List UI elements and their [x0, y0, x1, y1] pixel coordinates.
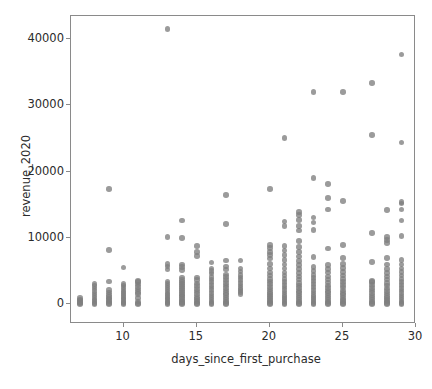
scatter-point [384, 262, 390, 268]
scatter-point [282, 135, 288, 141]
scatter-point [369, 80, 375, 86]
x-tick-mark [269, 323, 270, 327]
scatter-point [179, 218, 185, 224]
scatter-point [165, 261, 171, 267]
scatter-point [384, 234, 390, 240]
scatter-point [165, 234, 171, 240]
scatter-point [311, 175, 317, 181]
scatter-point [340, 89, 346, 95]
x-tick-label: 15 [188, 329, 203, 343]
scatter-point [282, 243, 288, 249]
scatter-point [223, 221, 229, 227]
x-tick-mark [415, 323, 416, 327]
scatter-point [399, 218, 405, 224]
y-tick-label: 30000 [4, 97, 64, 111]
x-tick-mark [342, 323, 343, 327]
scatter-point [311, 220, 317, 226]
scatter-point [369, 230, 375, 236]
x-tick-mark [123, 323, 124, 327]
scatter-point [106, 186, 112, 192]
scatter-point [399, 257, 405, 263]
scatter-point [325, 207, 331, 213]
scatter-point [340, 261, 346, 267]
scatter-point [399, 233, 405, 239]
scatter-point [399, 140, 405, 146]
scatter-point [296, 258, 302, 264]
scatter-point [296, 238, 302, 244]
scatter-point [369, 259, 375, 265]
scatter-point [238, 258, 244, 264]
scatter-point [325, 195, 331, 201]
scatter-point [399, 207, 405, 213]
scatter-point [296, 244, 302, 250]
scatter-point [165, 26, 171, 32]
plot-area [70, 15, 415, 323]
scatter-point [399, 199, 405, 205]
x-tick-mark [196, 323, 197, 327]
scatter-point [194, 249, 200, 255]
scatter-point [92, 281, 98, 287]
scatter-point [194, 243, 200, 249]
scatter-point [325, 246, 331, 252]
scatter-point [325, 262, 331, 268]
scatter-point [267, 186, 273, 192]
x-tick-label: 25 [335, 329, 350, 343]
scatter-point [311, 254, 317, 260]
scatter-point [223, 264, 229, 270]
scatter-points-layer [71, 16, 414, 322]
scatter-point [121, 281, 127, 287]
scatter-point [106, 287, 112, 293]
scatter-point [311, 89, 317, 95]
scatter-point [311, 215, 317, 221]
scatter-point [223, 272, 229, 278]
scatter-point [267, 242, 273, 248]
scatter-point [223, 192, 229, 198]
y-tick-label: 10000 [4, 230, 64, 244]
y-tick-label: 0 [4, 296, 64, 310]
y-tick-label: 40000 [4, 31, 64, 45]
scatter-point [369, 132, 375, 138]
scatter-point [223, 258, 229, 264]
scatter-point [209, 260, 215, 266]
scatter-point [179, 262, 185, 268]
scatter-point [106, 279, 112, 285]
scatter-point [179, 235, 185, 241]
scatter-point [340, 242, 346, 248]
scatter-point [369, 278, 375, 284]
scatter-point [311, 227, 317, 233]
scatter-point [194, 275, 200, 281]
y-tick-label: 20000 [4, 164, 64, 178]
scatter-point [121, 265, 127, 271]
scatter-point [135, 278, 141, 284]
scatter-point [296, 223, 302, 229]
scatter-point [384, 266, 390, 272]
scatter-point [296, 217, 302, 223]
scatter-point [325, 181, 331, 187]
x-axis-label-text: days_since_first_purchase [171, 352, 321, 366]
x-axis-label: days_since_first_purchase [0, 352, 432, 366]
x-tick-label: 10 [115, 329, 130, 343]
scatter-point [77, 295, 83, 301]
scatter-point [106, 247, 112, 253]
x-tick-label: 30 [408, 329, 423, 343]
x-tick-label: 20 [261, 329, 276, 343]
scatter-plot-figure: revenue_2020 010000200003000040000 10152… [0, 0, 432, 389]
scatter-point [384, 255, 390, 261]
scatter-point [267, 261, 273, 267]
scatter-point [384, 207, 390, 213]
scatter-point [340, 198, 346, 204]
scatter-point [399, 52, 405, 58]
scatter-point [282, 252, 288, 258]
scatter-point [340, 255, 346, 261]
scatter-point [296, 209, 302, 215]
